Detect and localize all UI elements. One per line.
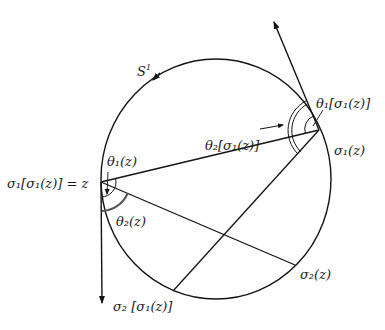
label-theta1-z: θ₁(z) [107,154,137,169]
label-theta2-sigma1-z: θ₂[σ₁(z)] [205,138,260,153]
label-theta2-z: θ₂(z) [116,214,146,229]
label-sigma2-sigma1-z: σ₂ [σ₁(z)] [113,299,173,314]
theta1-z-arrow-icon [107,172,108,194]
diagram-canvas: S1 σ₁[σ₁(z)] = z σ₁(z) σ₂(z) σ₂ [σ₁(z)] … [0,0,385,330]
angle-arc-theta2-sigma1-outer [288,101,306,154]
tangent-arrow-z [101,182,102,303]
label-circle-s1: S1 [137,63,151,79]
label-theta1-sigma1-z: θ₁[σ₁(z)] [316,96,371,111]
circle-orientation-arrow-icon [153,73,160,80]
label-sigma1-z: σ₁(z) [334,143,365,158]
circle-s1 [101,59,331,299]
angle-arc-theta1-sigma1 [305,116,314,133]
label-sigma2-z: σ₂(z) [300,267,331,282]
label-z-point: σ₁[σ₁(z)] = z [7,176,88,191]
circle-diagram: S1 σ₁[σ₁(z)] = z σ₁(z) σ₂(z) σ₂ [σ₁(z)] … [0,0,385,330]
chord-sigma1-sigma2sigma1 [173,130,319,291]
theta2-sigma1-arrow-icon [260,125,283,129]
